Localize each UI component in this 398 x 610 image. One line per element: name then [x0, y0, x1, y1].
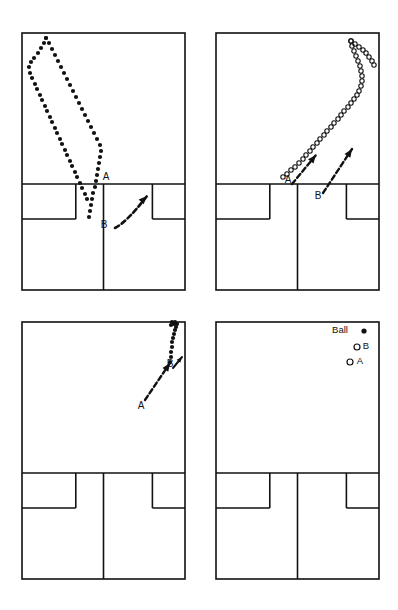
ball-trajectory-return-marker: [88, 209, 92, 213]
ball-trajectory-return-marker: [83, 113, 87, 117]
ball-trajectory-outbound-marker: [356, 59, 360, 63]
ball-trajectory-outbound-marker: [359, 69, 363, 73]
ball-trajectory-outbound-marker: [329, 125, 333, 129]
ball-trajectory-outbound-marker: [68, 159, 72, 163]
ball-trajectory-outbound-marker: [357, 89, 361, 93]
ball-trajectory-outbound-marker: [358, 64, 362, 68]
ball-trajectory-marker: [171, 336, 175, 340]
ball-trajectory-outbound-marker: [293, 165, 297, 169]
ball-trajectory-return-marker: [95, 173, 99, 177]
ball-trajectory-marker: [172, 332, 176, 336]
ball-trajectory-outbound-marker: [78, 181, 82, 185]
ball-trajectory-return-marker: [367, 55, 371, 59]
ball-trajectory-outbound-marker: [315, 141, 319, 145]
ball-trajectory-outbound-marker: [32, 56, 36, 60]
ball-trajectory-outbound-marker: [85, 197, 89, 201]
ball-trajectory-outbound-marker: [45, 109, 49, 113]
ball-trajectory-outbound-marker: [332, 121, 336, 125]
ball-trajectory-outbound-marker: [70, 164, 74, 168]
ball-trajectory-outbound-marker: [50, 120, 54, 124]
ball-trajectory-marker: [170, 345, 174, 349]
ball-trajectory-return-marker: [98, 143, 102, 147]
ball-trajectory-outbound-marker: [65, 153, 69, 157]
panel-2: AB: [216, 33, 379, 290]
ball-trajectory-return-marker: [357, 45, 361, 49]
ball-trajectory-return-marker: [65, 77, 69, 81]
ball-trajectory-outbound-marker: [36, 51, 40, 55]
ball-trajectory-outbound-marker: [75, 175, 79, 179]
ball-trajectory-outbound-marker: [360, 74, 364, 78]
ball-trajectory-return-marker: [89, 203, 93, 207]
ball-trajectory-return-marker: [53, 53, 57, 57]
ball-trajectory-return-marker: [87, 215, 91, 219]
legend: BallBA: [332, 324, 369, 366]
ball-trajectory-outbound-marker: [311, 145, 315, 149]
panel-4: [216, 322, 379, 579]
ball-trajectory-return-marker: [95, 137, 99, 141]
ball-trajectory-outbound-marker: [60, 142, 64, 146]
ball-trajectory-outbound-marker: [35, 87, 39, 91]
ball-trajectory-return-marker: [71, 89, 75, 93]
ball-trajectory-outbound-marker: [55, 131, 59, 135]
ball-trajectory-outbound-marker: [359, 84, 363, 88]
ball-trajectory-outbound-marker: [346, 105, 350, 109]
badminton-trajectory-figure: ABABABBallBA: [0, 0, 398, 610]
ball-trajectory-return-marker: [68, 83, 72, 87]
ball-trajectory-return-marker: [47, 41, 51, 45]
ball-trajectory-outbound-marker: [352, 97, 356, 101]
ball-trajectory-outbound-marker: [297, 161, 301, 165]
ball-trajectory-marker: [169, 350, 173, 354]
legend-item-b-marker: [354, 344, 360, 350]
ball-trajectory-return-marker: [364, 51, 368, 55]
ball-trajectory-outbound-marker: [58, 137, 62, 141]
ball-trajectory-return-marker: [77, 101, 81, 105]
legend-item-a-marker: [347, 359, 353, 365]
ball-trajectory-outbound-marker: [43, 104, 47, 108]
label-a: A: [138, 400, 145, 411]
ball-trajectory-outbound-marker: [301, 157, 305, 161]
ball-trajectory-return-marker: [44, 36, 48, 40]
ball-trajectory-return-marker: [90, 197, 94, 201]
ball-trajectory-return-marker: [372, 63, 376, 67]
ball-trajectory-outbound-marker: [30, 76, 34, 80]
label-b: B: [315, 190, 322, 201]
ball-trajectory-outbound-marker: [53, 126, 57, 130]
ball-trajectory-outbound-marker: [349, 101, 353, 105]
ball-trajectory-outbound-marker: [73, 170, 77, 174]
ball-trajectory-outbound-marker: [289, 168, 293, 172]
ball-trajectory-outbound-marker: [336, 117, 340, 121]
ball-trajectory-return-marker: [74, 95, 78, 99]
ball-trajectory-outbound-marker: [38, 93, 42, 97]
ball-trajectory-return-marker: [96, 167, 100, 171]
ball-trajectory-outbound-marker: [322, 133, 326, 137]
ball-trajectory-outbound-marker: [63, 148, 67, 152]
ball-trajectory-outbound-marker: [48, 115, 52, 119]
ball-trajectory-outbound-marker: [325, 129, 329, 133]
ball-trajectory-outbound-marker: [308, 149, 312, 153]
legend-item-a-label: A: [357, 355, 364, 366]
ball-trajectory-return-marker: [89, 125, 93, 129]
ball-trajectory-outbound-marker: [339, 113, 343, 117]
ball-trajectory-outbound-marker: [304, 153, 308, 157]
ball-trajectory-return-marker: [94, 179, 98, 183]
ball-trajectory-return-marker: [59, 65, 63, 69]
ball-trajectory-return-marker: [97, 161, 101, 165]
label-b: B: [101, 219, 108, 230]
legend-item-ball-label: Ball: [332, 324, 348, 335]
ball-trajectory-return-marker: [349, 39, 353, 43]
ball-trajectory-outbound-marker: [29, 60, 33, 64]
ball-trajectory-return-marker: [86, 119, 90, 123]
ball-trajectory-outbound-marker: [342, 109, 346, 113]
ball-trajectory-outbound-marker: [80, 186, 84, 190]
figure-root: ABABABBallBA: [0, 0, 398, 610]
panel-3: AB: [22, 320, 185, 579]
ball-trajectory-outbound-marker: [42, 41, 46, 45]
ball-trajectory-return-marker: [92, 131, 96, 135]
label-b: B: [167, 358, 174, 369]
ball-trajectory-outbound-marker: [360, 79, 364, 83]
ball-trajectory-return-marker: [98, 155, 102, 159]
label-a: A: [103, 171, 110, 182]
legend-item-b-label: B: [363, 340, 369, 351]
ball-trajectory-outbound-marker: [318, 137, 322, 141]
ball-trajectory-outbound-marker: [40, 98, 44, 102]
